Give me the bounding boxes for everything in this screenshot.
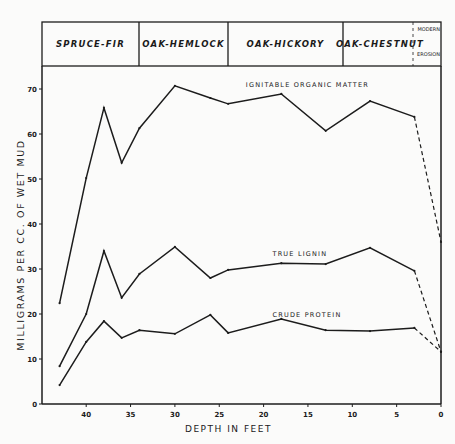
data-point: [280, 93, 282, 95]
data-point: [58, 302, 60, 304]
band-label-top: MODERN: [418, 26, 441, 32]
y-tick-label: 30: [27, 266, 37, 274]
data-point: [138, 329, 140, 331]
data-point: [138, 273, 140, 275]
data-point: [369, 247, 371, 249]
series-line: [60, 315, 415, 385]
data-series: [58, 85, 442, 386]
y-tick-label: 20: [27, 311, 37, 319]
x-tick-label: 0: [439, 411, 444, 419]
data-point: [121, 162, 123, 164]
data-point: [413, 270, 415, 272]
data-point: [440, 351, 442, 353]
data-point: [369, 100, 371, 102]
y-tick-label: 40: [27, 221, 37, 229]
data-point: [121, 297, 123, 299]
series-line: [60, 247, 415, 366]
data-point: [103, 107, 105, 109]
data-point: [325, 329, 327, 331]
band-label: OAK-HICKORY: [247, 39, 325, 49]
band-label: OAK-CHESTNUT: [336, 39, 424, 49]
data-point: [103, 320, 105, 322]
data-point: [138, 127, 140, 129]
x-tick-label: 30: [170, 411, 180, 419]
x-axis-label: DEPTH IN FEET: [185, 424, 272, 434]
data-point: [174, 246, 176, 248]
data-point: [174, 333, 176, 335]
data-point: [413, 327, 415, 329]
y-tick-label: 60: [27, 131, 37, 139]
data-point: [440, 241, 442, 243]
y-tick-label: 0: [32, 401, 37, 409]
axes: 0102030405060704035302520151050: [27, 66, 443, 419]
data-point: [227, 103, 229, 105]
series-line-dashed: [414, 117, 441, 242]
data-point: [103, 250, 105, 252]
series-label: TRUE LIGNIN: [271, 250, 327, 258]
x-tick-label: 25: [214, 411, 224, 419]
data-point: [85, 341, 87, 343]
y-axis-label: MILLIGRAMS PER CC. OF WET MUD: [15, 139, 26, 350]
band-label: OAK-HEMLOCK: [142, 39, 225, 49]
data-point: [209, 314, 211, 316]
data-point: [325, 130, 327, 132]
band-label-bottom: EROSION: [417, 51, 440, 57]
data-point: [121, 337, 123, 339]
vegetation-zone-header: SPRUCE-FIROAK-HEMLOCKOAK-HICKORYOAK-CHES…: [42, 22, 441, 66]
data-point: [209, 277, 211, 279]
pollen-chemistry-chart: SPRUCE-FIROAK-HEMLOCKOAK-HICKORYOAK-CHES…: [0, 0, 455, 444]
series-line: [60, 86, 415, 303]
x-tick-label: 15: [303, 411, 313, 419]
y-tick-label: 10: [27, 356, 37, 364]
x-tick-label: 20: [259, 411, 269, 419]
data-point: [58, 384, 60, 386]
data-point: [85, 177, 87, 179]
data-point: [325, 263, 327, 265]
x-tick-label: 10: [347, 411, 357, 419]
y-tick-label: 70: [27, 86, 37, 94]
data-point: [58, 365, 60, 367]
band-label: SPRUCE-FIR: [56, 39, 125, 49]
data-point: [209, 97, 211, 99]
data-point: [413, 116, 415, 118]
series-label: CRUDE PROTEIN: [272, 311, 341, 319]
data-point: [174, 85, 176, 87]
data-point: [369, 330, 371, 332]
data-point: [85, 313, 87, 315]
x-tick-label: 40: [81, 411, 91, 419]
data-point: [280, 262, 282, 264]
x-tick-label: 35: [126, 411, 136, 419]
series-label: IGNITABLE ORGANIC MATTER: [246, 81, 369, 89]
y-tick-label: 50: [27, 176, 37, 184]
data-point: [227, 269, 229, 271]
data-point: [227, 332, 229, 334]
x-tick-label: 5: [394, 411, 399, 419]
